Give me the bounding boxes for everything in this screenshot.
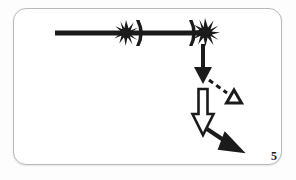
- figure-number-label: 5: [266, 148, 282, 164]
- figure-card: [13, 8, 282, 165]
- figure-scene: 5: [0, 0, 296, 180]
